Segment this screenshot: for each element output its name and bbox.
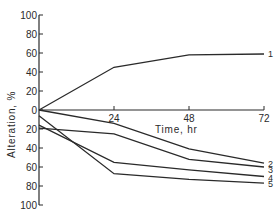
series-lines [39, 54, 264, 183]
line-chart: 10080604020020406080100 244872 12345 Tim… [0, 0, 279, 213]
series-line-1 [39, 54, 264, 110]
series-label-5: 5 [268, 179, 273, 189]
y-tick-label: 100 [20, 10, 37, 21]
y-tick-label: 0 [31, 105, 37, 116]
series-label-1: 1 [268, 49, 273, 59]
y-tick-label: 60 [26, 48, 38, 59]
series-line-3 [39, 128, 264, 167]
series-line-4 [39, 125, 264, 176]
series-line-2 [39, 110, 264, 163]
x-ticks: 244872 [108, 106, 270, 124]
y-tick-label: 80 [26, 29, 38, 40]
y-tick-label: 100 [20, 200, 37, 211]
y-tick-label: 40 [26, 67, 38, 78]
y-axis-label: Alteration, % [6, 91, 17, 158]
x-axis-label: Time, hr [155, 124, 198, 135]
x-tick-label: 72 [258, 113, 270, 124]
y-tick-label: 80 [26, 181, 38, 192]
y-tick-label: 40 [26, 143, 38, 154]
y-tick-label: 20 [26, 124, 38, 135]
x-tick-label: 48 [183, 113, 195, 124]
y-tick-label: 20 [26, 86, 38, 97]
y-tick-label: 60 [26, 162, 38, 173]
